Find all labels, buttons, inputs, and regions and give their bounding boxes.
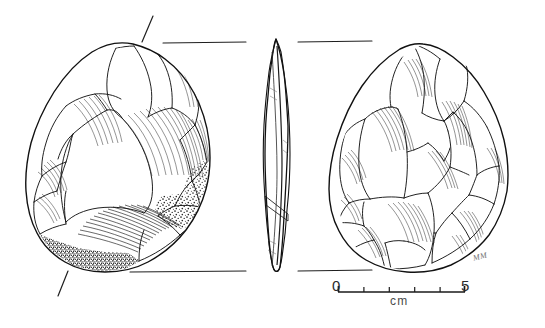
scale-unit-label: cm xyxy=(390,294,408,308)
lithic-figure: 0 5 cm MM xyxy=(0,0,545,328)
scale-end-label: 5 xyxy=(461,277,470,294)
scale-start-label: 0 xyxy=(332,277,341,294)
